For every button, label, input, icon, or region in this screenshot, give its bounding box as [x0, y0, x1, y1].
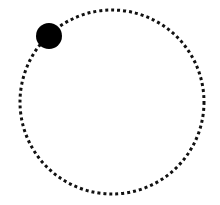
filled-dot-marker	[36, 23, 62, 49]
diagram-canvas	[0, 0, 220, 205]
